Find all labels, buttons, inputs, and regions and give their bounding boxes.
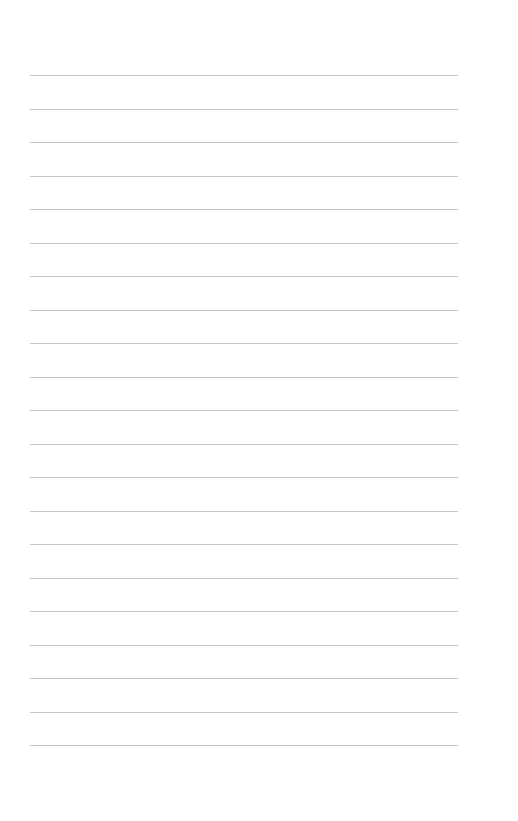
ruled-line bbox=[30, 176, 458, 177]
ruled-line bbox=[30, 310, 458, 311]
ruled-line bbox=[30, 578, 458, 579]
ruled-line bbox=[30, 444, 458, 445]
ruled-line bbox=[30, 678, 458, 679]
ruled-line bbox=[30, 544, 458, 545]
ruled-line bbox=[30, 410, 458, 411]
ruled-line bbox=[30, 712, 458, 713]
ruled-line bbox=[30, 75, 458, 76]
ruled-line bbox=[30, 209, 458, 210]
ruled-line bbox=[30, 377, 458, 378]
ruled-line bbox=[30, 511, 458, 512]
ruled-line bbox=[30, 276, 458, 277]
ruled-line bbox=[30, 745, 458, 746]
ruled-line bbox=[30, 109, 458, 110]
ruled-line bbox=[30, 477, 458, 478]
ruled-line bbox=[30, 645, 458, 646]
ruled-line bbox=[30, 343, 458, 344]
ruled-line bbox=[30, 142, 458, 143]
ruled-line bbox=[30, 243, 458, 244]
ruled-line bbox=[30, 611, 458, 612]
lined-page bbox=[0, 0, 518, 821]
